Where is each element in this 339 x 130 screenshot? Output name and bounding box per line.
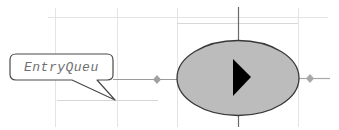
callout-label: EntryQueu <box>24 60 99 75</box>
queue-entry-node[interactable] <box>177 41 299 116</box>
diamond-marker-icon[interactable] <box>306 74 314 83</box>
left-connector[interactable] <box>113 75 178 84</box>
right-connector[interactable] <box>299 74 330 83</box>
diamond-marker-icon[interactable] <box>153 75 161 84</box>
